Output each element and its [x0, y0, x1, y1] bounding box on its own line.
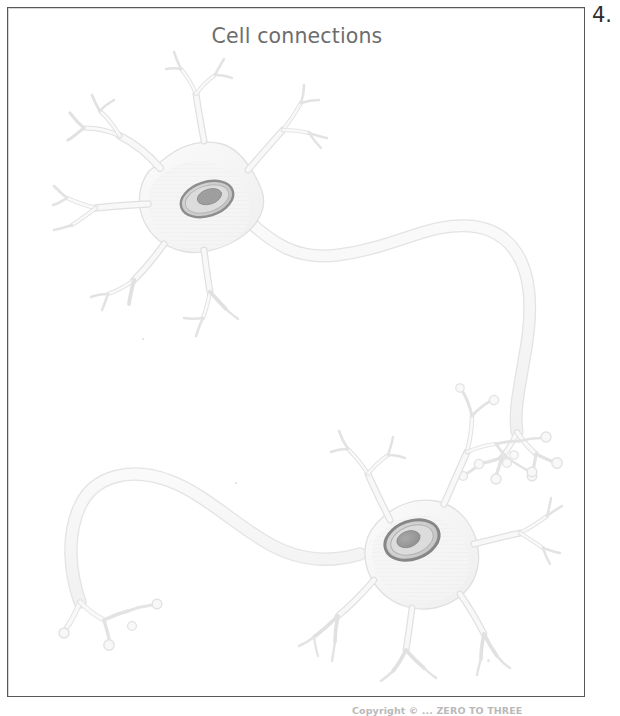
lower-neuron-dendrite-right: [474, 498, 562, 564]
dendrite-bouton: [456, 384, 464, 392]
axon-bouton: [152, 599, 162, 609]
upper-neuron-dendrite-left: [53, 186, 148, 230]
copyright-caption: Copyright © ... ZERO TO THREE: [352, 705, 620, 716]
lower-neuron-axon-terminals: [59, 599, 162, 650]
dendrite-bouton: [527, 467, 537, 477]
dendrite-bouton: [503, 459, 512, 468]
dendrite-bouton: [489, 395, 498, 404]
lower-neuron-dendrite-downleft: [299, 580, 374, 661]
neuron-diagram: [8, 8, 584, 696]
dendrite-bouton: [541, 432, 551, 442]
axon-bouton: [474, 459, 483, 468]
upper-neuron-dendrite-down: [184, 250, 238, 336]
axon-bouton: [491, 474, 501, 484]
axon-bouton: [128, 622, 137, 631]
lower-neuron-axon: [71, 474, 360, 602]
upper-neuron-dendrite-downleft: [91, 244, 164, 310]
upper-neuron: [53, 52, 562, 484]
upper-neuron-dendrite-upleft: [68, 95, 160, 168]
upper-neuron-dendrite-upright: [248, 85, 327, 170]
lower-neuron-dendrite-down: [381, 608, 436, 681]
lower-neuron-dendrite-downright: [460, 594, 510, 675]
upper-neuron-dendrite-up: [166, 52, 232, 141]
item-number: 4.: [592, 3, 612, 27]
lower-neuron: [59, 384, 562, 681]
axon-bouton: [552, 458, 562, 468]
axon-bouton: [59, 628, 69, 638]
lower-neuron-dendrite-up: [444, 384, 551, 504]
axon-bouton: [104, 640, 114, 650]
lower-neuron-dendrite-upleft: [331, 431, 405, 520]
axon-bouton: [510, 451, 518, 459]
